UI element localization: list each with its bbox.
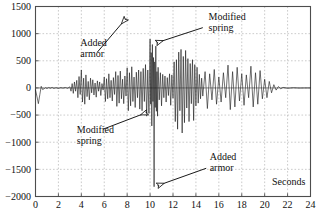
x-tick-label: 10 — [145, 199, 155, 210]
y-tick-label: 1000 — [11, 28, 31, 39]
annotation-arrow — [158, 168, 207, 185]
x-tick-label: 6 — [102, 199, 107, 210]
x-tick-label: 4 — [79, 199, 84, 210]
annotation-text-line1: Modified — [77, 124, 114, 135]
x-tick-label: 22 — [283, 199, 293, 210]
y-tick-label: −2000 — [5, 191, 31, 202]
x-tick-label: 16 — [214, 199, 224, 210]
y-tick-label: −500 — [10, 109, 31, 120]
y-tick-label: −1500 — [5, 164, 31, 175]
figure-container: 024681012141618202224150010005000−500−10… — [0, 0, 322, 221]
annotation-added-armor-bottom: Addedarmor — [158, 151, 237, 186]
annotation-text-line1: Added — [80, 37, 107, 48]
x-tick-label: 24 — [306, 199, 316, 210]
x-tick-label: 0 — [33, 199, 38, 210]
x-tick-labels-group: 024681012141618202224 — [33, 199, 316, 210]
x-tick-label: 2 — [56, 199, 61, 210]
x-axis-unit-label: Seconds — [272, 176, 305, 187]
y-tick-label: 0 — [26, 82, 31, 93]
x-tick-label: 14 — [191, 199, 201, 210]
chart-canvas: 024681012141618202224150010005000−500−10… — [0, 0, 322, 221]
y-tick-label: 1500 — [11, 1, 31, 12]
annotation-text-line1: Added — [210, 151, 237, 162]
x-tick-label: 8 — [125, 199, 130, 210]
annotation-text-line2: spring — [77, 135, 102, 146]
annotation-modified-spring-top: Modifiedspring — [156, 11, 245, 43]
y-tick-label: 500 — [16, 55, 31, 66]
annotation-modified-spring-bottom: Modifiedspring — [77, 112, 147, 146]
annotation-text-line2: spring — [209, 22, 234, 33]
x-tick-label: 20 — [260, 199, 270, 210]
annotation-text-line2: armor — [210, 162, 235, 173]
x-tick-label: 12 — [168, 199, 178, 210]
annotation-text-line2: armor — [80, 48, 105, 59]
gridlines-group — [36, 7, 311, 197]
y-tick-label: −1000 — [5, 137, 31, 148]
y-tick-labels-group: 150010005000−500−1000−1500−2000 — [5, 1, 31, 202]
annotation-text-line1: Modified — [209, 11, 246, 22]
annotation-added-armor-top: Addedarmor — [80, 18, 126, 58]
x-tick-label: 18 — [237, 199, 247, 210]
